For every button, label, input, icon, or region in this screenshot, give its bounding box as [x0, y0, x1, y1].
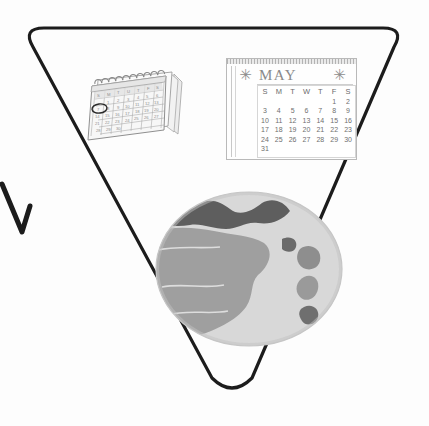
calendar-day-cell: [258, 97, 272, 107]
calendar-day-cell: 1: [327, 97, 341, 107]
calendar-day-cell: 5: [286, 106, 300, 116]
svg-text:11: 11: [135, 102, 140, 107]
calendar-day-cell: [313, 97, 327, 107]
calendar-day-cell: 20: [300, 125, 314, 135]
calendar-week-row: 17 18 19 20 21 22 23: [258, 125, 355, 135]
svg-text:30: 30: [116, 126, 121, 131]
calendar-day-cell: 21: [313, 125, 327, 135]
svg-text:14: 14: [95, 114, 100, 119]
svg-text:20: 20: [154, 107, 159, 112]
svg-text:27: 27: [154, 114, 159, 119]
weekday-header: W: [300, 86, 314, 97]
partial-y-stroke-path: [2, 184, 30, 232]
illustration-canvas: SMT UTFS 123 456 789 10111213 141516 171…: [0, 0, 429, 426]
svg-text:29: 29: [106, 127, 111, 132]
calendar-day-cell: 23: [341, 125, 355, 135]
svg-text:24: 24: [125, 118, 130, 123]
calendar-day-cell: 4: [272, 106, 286, 116]
svg-text:13: 13: [154, 100, 159, 105]
calendar-day-cell: [272, 97, 286, 107]
svg-text:U: U: [127, 89, 130, 94]
svg-text:28: 28: [96, 128, 101, 133]
svg-text:16: 16: [115, 112, 120, 117]
calendar-day-cell: 9: [341, 106, 355, 116]
weekday-header: S: [341, 86, 355, 97]
calendar-day-cell: [272, 144, 286, 154]
weekday-header: T: [286, 86, 300, 97]
calendar-day-cell: 28: [313, 135, 327, 145]
calendar-day-cell: [327, 144, 341, 154]
calendar-day-cell: 16: [341, 116, 355, 126]
desk-calendar: SMT UTFS 123 456 789 10111213 141516 171…: [78, 58, 186, 150]
calendar-day-cell: 30: [341, 135, 355, 145]
svg-text:17: 17: [125, 111, 130, 116]
calendar-day-cell: 31: [258, 144, 272, 154]
calendar-week-row: 31: [258, 144, 355, 154]
svg-text:18: 18: [135, 109, 140, 114]
globe-image: [154, 191, 344, 347]
calendar-left-rule: [231, 66, 232, 157]
calendar-day-cell: 15: [327, 116, 341, 126]
calendar-table: S M T W T F S: [258, 86, 355, 154]
weekday-header: M: [272, 86, 286, 97]
svg-text:F: F: [147, 86, 150, 91]
calendar-day-cell: 6: [300, 106, 314, 116]
weekday-header: F: [327, 86, 341, 97]
calendar-week-row: 3 4 5 6 7 8 9: [258, 106, 355, 116]
wall-calendar: ✳ ✳ MAY S M T W T F S: [226, 58, 357, 160]
svg-text:26: 26: [144, 115, 149, 120]
calendar-weekday-header-row: S M T W T F S: [258, 86, 355, 97]
calendar-day-cell: [313, 144, 327, 154]
calendar-day-cell: 11: [272, 116, 286, 126]
star-burst-icon-right: ✳: [333, 69, 346, 82]
calendar-day-cell: 17: [258, 125, 272, 135]
calendar-day-cell: 14: [313, 116, 327, 126]
calendar-left-rule-2: [235, 66, 236, 157]
svg-text:T: T: [137, 88, 140, 93]
desk-calendar-drawing: SMT UTFS 123 456 789 10111213 141516 171…: [78, 58, 186, 150]
calendar-day-cell: 18: [272, 125, 286, 135]
calendar-day-cell: [286, 97, 300, 107]
svg-text:23: 23: [115, 119, 120, 124]
star-burst-icon-left: ✳: [239, 69, 252, 82]
calendar-day-cell: 27: [300, 135, 314, 145]
calendar-day-cell: 29: [327, 135, 341, 145]
calendar-week-row: 1 2: [258, 97, 355, 107]
calendar-day-cell: 8: [327, 106, 341, 116]
calendar-day-cell: 12: [286, 116, 300, 126]
svg-text:10: 10: [125, 104, 130, 109]
calendar-day-cell: 25: [272, 135, 286, 145]
weekday-header: S: [258, 86, 272, 97]
svg-text:22: 22: [105, 120, 110, 125]
calendar-day-cell: [341, 144, 355, 154]
calendar-grid: S M T W T F S: [257, 85, 356, 158]
svg-text:T: T: [117, 90, 120, 95]
calendar-day-cell: 19: [286, 125, 300, 135]
calendar-week-row: 10 11 12 13 14 15 16: [258, 116, 355, 126]
svg-text:12: 12: [145, 101, 150, 106]
svg-text:S: S: [156, 85, 159, 90]
calendar-day-cell: [300, 144, 314, 154]
calendar-day-cell: 7: [313, 106, 327, 116]
calendar-day-cell: 22: [327, 125, 341, 135]
calendar-day-cell: 24: [258, 135, 272, 145]
calendar-day-cell: [286, 144, 300, 154]
calendar-day-cell: 2: [341, 97, 355, 107]
svg-text:15: 15: [105, 113, 110, 118]
svg-text:S: S: [97, 93, 100, 98]
weekday-header: T: [313, 86, 327, 97]
calendar-day-cell: 10: [258, 116, 272, 126]
calendar-day-cell: 3: [258, 106, 272, 116]
globe-island-4: [282, 237, 296, 251]
calendar-month-title: MAY: [259, 67, 297, 84]
calendar-day-cell: 13: [300, 116, 314, 126]
svg-text:M: M: [107, 92, 111, 97]
svg-text:25: 25: [134, 116, 139, 121]
svg-text:21: 21: [95, 121, 100, 126]
calendar-week-row: 24 25 26 27 28 29 30: [258, 135, 355, 145]
calendar-day-cell: [300, 97, 314, 107]
globe-island-1: [297, 246, 320, 269]
calendar-day-cell: 26: [286, 135, 300, 145]
globe-drawing: [154, 191, 344, 347]
svg-text:19: 19: [144, 108, 149, 113]
